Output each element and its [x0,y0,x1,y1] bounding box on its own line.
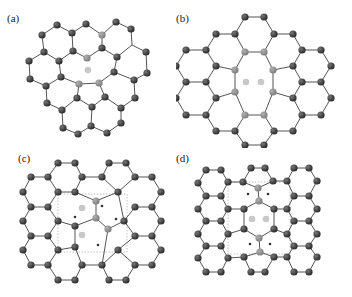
carbon-atom [270,127,277,134]
carbon-atom [290,192,297,199]
carbon-atom [202,78,209,85]
carbon-atom [290,242,297,249]
carbon-atom [182,111,189,118]
carbon-atom [122,276,129,283]
defect-atom [83,54,90,61]
carbon-atom [71,243,78,250]
hydrogen-atom [115,218,118,221]
carbon-atom [194,179,201,186]
carbon-atom [19,188,26,195]
carbon-atom [44,203,51,210]
carbon-atom [290,217,297,224]
defect-atom [256,248,263,255]
carbon-atom [73,94,80,101]
carbon-atom [305,242,312,249]
carbon-atom [112,18,119,25]
defect-atom [98,31,105,38]
carbon-atom [114,188,121,195]
vacancy-site [249,216,256,223]
panel-label-d: (d) [176,152,189,164]
carbon-atom [317,78,324,85]
carbon-atom [148,173,155,180]
carbon-atom [74,130,81,137]
carbon-atom [269,177,276,184]
lattice-diagram-a [0,0,176,148]
carbon-atom [313,230,320,237]
carbon-atom [290,164,297,171]
carbon-atom [283,205,290,212]
hydrogen-atom [249,243,252,246]
defect-atom [255,234,262,241]
carbon-atom [212,30,219,37]
carbon-atom [57,73,64,80]
carbon-atom [105,159,112,166]
carbon-atom [305,217,312,224]
panel-c-hydrogenated-vacancy-structure: (c) [0,148,176,296]
carbon-atom [270,253,277,260]
hydrogen-atom [267,193,270,196]
carbon-atom [131,173,138,180]
carbon-atom [289,94,296,101]
carbon-atom [270,205,277,212]
carbon-atom [224,205,231,212]
panel-label-c: (c) [18,152,30,164]
carbon-atom [305,164,312,171]
bond [264,92,273,115]
carbon-atom [182,78,189,85]
carbon-atom [202,111,209,118]
carbon-atom [98,173,105,180]
carbon-atom [217,166,224,173]
carbon-atom [194,205,201,212]
carbon-atom [68,29,75,36]
carbon-atom [98,44,105,51]
carbon-atom [212,62,219,69]
carbon-atom [224,254,231,261]
hydrogen-atom [247,193,250,196]
carbon-atom [224,178,231,185]
vacancy-site [263,216,270,223]
carbon-atom [54,246,61,253]
carbon-atom [114,246,121,253]
carbon-atom [127,25,134,32]
carbon-atom [212,127,219,134]
carbon-atom [130,76,137,83]
carbon-atom [260,13,267,20]
carbon-atom [202,192,209,199]
carbon-atom [131,94,138,101]
carbon-atom [59,124,66,131]
vacancy-site [79,205,86,212]
carbon-atom [224,230,231,237]
defect-atom [254,184,261,191]
carbon-atom [71,276,78,283]
carbon-atom [110,68,117,75]
carbon-atom [182,46,189,53]
defect-atom [269,66,276,73]
carbon-atom [120,217,127,224]
carbon-atom [231,30,238,37]
vacancy-site [258,79,265,86]
hydrogen-atom [74,216,77,219]
lattice-diagram-d [176,148,352,296]
carbon-atom [88,103,95,110]
carbon-atom [131,232,138,239]
carbon-atom [25,57,32,64]
carbon-atom [317,46,324,53]
carbon-atom [19,217,26,224]
carbon-atom [38,31,45,38]
bond [118,192,124,221]
carbon-atom [117,119,124,126]
defect-atom [269,88,276,95]
bond [235,92,245,115]
defect-atom [255,197,262,204]
carbon-atom [82,20,89,27]
carbon-atom [148,261,155,268]
carbon-atom [202,268,209,275]
carbon-atom [217,268,224,275]
carbon-atom [240,225,247,232]
carbon-atom [283,177,290,184]
defect-atom [95,79,102,86]
carbon-atom [44,261,51,268]
carbon-atom [217,242,224,249]
carbon-atom [54,159,61,166]
carbon-atom [148,232,155,239]
